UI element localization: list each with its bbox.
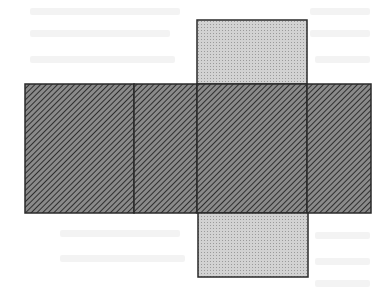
face-top — [197, 20, 307, 84]
cube-faces — [25, 20, 371, 277]
face-right — [307, 84, 371, 213]
face-bottom — [198, 213, 308, 277]
face-center — [197, 84, 307, 213]
face-left-center — [134, 84, 197, 213]
face-left — [25, 84, 134, 213]
cube-net-diagram — [0, 0, 389, 294]
